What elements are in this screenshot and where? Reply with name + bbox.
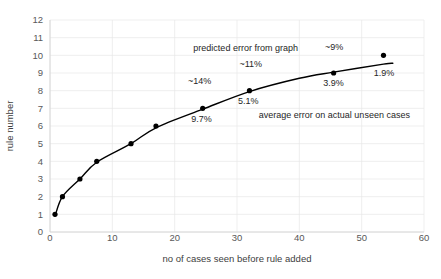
annotation-pred-14: ~14% bbox=[188, 76, 211, 86]
annotation-actual-1-9: 1.9% bbox=[374, 68, 395, 78]
data-point-marker bbox=[52, 212, 57, 217]
y-tick-label: 0 bbox=[38, 226, 43, 237]
data-point-marker bbox=[77, 176, 82, 181]
y-tick-label: 11 bbox=[33, 32, 43, 43]
y-tick-label: 2 bbox=[38, 191, 43, 202]
y-tick-label: 1 bbox=[38, 209, 43, 220]
annotation-pred-9: ~9% bbox=[325, 42, 343, 52]
annotation-pred-11: ~11% bbox=[239, 59, 262, 69]
scatter-chart: 0102030405060 0123456789101112 predicted… bbox=[0, 0, 441, 279]
annotation-actual-5-1: 5.1% bbox=[238, 96, 259, 106]
y-tick-label: 9 bbox=[38, 67, 43, 78]
data-point-marker bbox=[331, 70, 336, 75]
y-tick-label: 7 bbox=[38, 103, 43, 114]
data-point-marker bbox=[153, 123, 158, 128]
annotation-actual-3-9: 3.9% bbox=[323, 78, 344, 88]
x-tick-label: 10 bbox=[107, 232, 118, 243]
x-tick-label: 40 bbox=[294, 232, 305, 243]
data-point-marker bbox=[200, 106, 205, 111]
annotation-predicted-error-label: predicted error from graph bbox=[193, 43, 298, 53]
y-tick-label: 6 bbox=[38, 120, 43, 131]
x-axis-title: no of cases seen before rule added bbox=[163, 253, 312, 264]
data-point-marker bbox=[247, 88, 252, 93]
data-point-marker bbox=[381, 53, 386, 58]
x-tick-label: 0 bbox=[47, 232, 52, 243]
y-tick-label: 3 bbox=[38, 173, 43, 184]
y-tick-label: 4 bbox=[38, 156, 43, 167]
chart-background bbox=[0, 0, 441, 279]
annotation-actual-error-label: average error on actual unseen cases bbox=[259, 110, 411, 120]
data-point-marker bbox=[128, 141, 133, 146]
y-tick-label: 12 bbox=[32, 14, 43, 25]
x-tick-label: 60 bbox=[419, 232, 430, 243]
data-point-marker bbox=[60, 194, 65, 199]
data-point-marker bbox=[94, 159, 99, 164]
y-tick-label: 5 bbox=[38, 138, 43, 149]
x-tick-label: 20 bbox=[169, 232, 180, 243]
y-tick-label: 10 bbox=[32, 50, 43, 61]
y-tick-label: 8 bbox=[38, 85, 43, 96]
chart-container: 0102030405060 0123456789101112 predicted… bbox=[0, 0, 441, 279]
x-tick-label: 50 bbox=[356, 232, 367, 243]
x-tick-label: 30 bbox=[232, 232, 243, 243]
y-axis-title: rule number bbox=[4, 101, 15, 152]
annotation-actual-9-7: 9.7% bbox=[191, 114, 212, 124]
